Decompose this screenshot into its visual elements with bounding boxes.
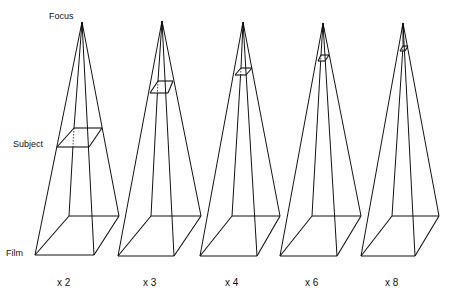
- film-plane-edge: [118, 216, 151, 256]
- lateral-edge: [74, 22, 82, 128]
- focus-label: Focus: [49, 11, 74, 21]
- magnification-label: x 4: [225, 277, 239, 288]
- subject-plane-edge: [235, 68, 241, 75]
- subject-label: Subject: [13, 139, 44, 149]
- pyramid-x8: [361, 22, 439, 256]
- film-plane-edge: [94, 216, 119, 255]
- lateral-edge: [232, 75, 241, 216]
- film-plane-edge: [361, 216, 392, 256]
- magnification-pyramids-diagram: Focus Subject Film x 2 x 3 x 4 x 6 x 8: [0, 0, 449, 298]
- film-plane-edge: [257, 216, 280, 256]
- lateral-edge: [162, 21, 174, 256]
- film-plane-edge: [415, 216, 439, 256]
- pyramid-x3: [118, 20, 201, 256]
- film-label: Film: [6, 248, 23, 258]
- film-plane-edge: [35, 216, 69, 255]
- magnification-label: x 3: [143, 277, 157, 288]
- pyramid-x6: [280, 22, 361, 256]
- film-plane-edge: [337, 216, 361, 256]
- hidden-edge: [157, 81, 158, 93]
- pyramid-x4: [200, 21, 280, 256]
- lateral-edge: [82, 22, 119, 216]
- pyramid-x2: [35, 21, 119, 255]
- subject-plane-edge: [168, 81, 173, 93]
- lateral-edge: [403, 23, 415, 256]
- lateral-edge: [151, 93, 157, 216]
- lateral-edge: [312, 61, 321, 216]
- subject-plane-edge: [246, 68, 252, 75]
- lateral-edge: [162, 21, 201, 216]
- film-plane-edge: [280, 216, 312, 256]
- magnification-label: x 2: [57, 277, 71, 288]
- film-plane-edge: [174, 216, 201, 256]
- lateral-edge: [69, 147, 73, 216]
- film-plane-edge: [200, 216, 232, 256]
- lateral-edge: [82, 22, 94, 255]
- magnification-label: x 6: [305, 277, 319, 288]
- hidden-edge: [73, 128, 74, 147]
- subject-plane-edge: [89, 128, 102, 147]
- magnification-label: x 8: [385, 277, 399, 288]
- subject-plane-edge: [150, 81, 158, 93]
